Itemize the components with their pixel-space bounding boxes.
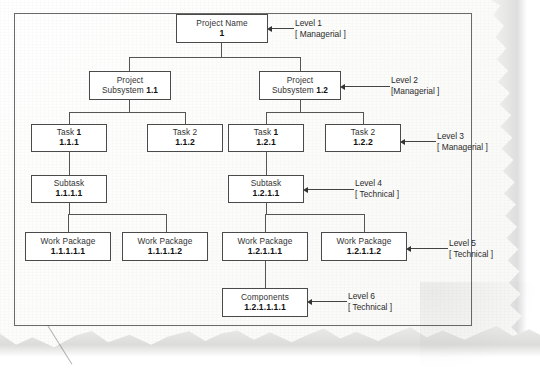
annotation-kind: [ Technical ]: [355, 189, 399, 200]
node-title: Work Package: [41, 237, 96, 246]
connector-line: [221, 43, 222, 57]
node-code: 1.1.1.1.1: [51, 247, 85, 257]
annotation-arrow-head-icon: [303, 187, 308, 193]
wbs-node-1-1-1-1-1: Work Package1.1.1.1.1: [25, 232, 111, 261]
connector-line: [266, 112, 267, 124]
wbs-node-1-2-2: Task 21.2.2: [325, 124, 401, 152]
pencil-mark: [47, 325, 72, 365]
connector-line: [69, 112, 70, 124]
annotation-kind: [ Managerial ]: [295, 29, 346, 40]
wbs-node-1: Project Name1: [176, 14, 268, 43]
wbs-node-: ProjectSubsystem 1.2: [259, 71, 341, 100]
node-title: Work Package: [238, 237, 293, 246]
annotation-arrow-line: [272, 28, 294, 29]
connector-line: [69, 203, 70, 214]
node-code: 1.2.2: [353, 138, 373, 148]
annotation-arrow-line: [345, 86, 390, 87]
annotation-level: Level 6: [348, 291, 392, 302]
level-annotation-3: Level 3[ Managerial ]: [437, 131, 488, 152]
connector-line: [300, 57, 301, 71]
connector-line: [363, 112, 364, 124]
level-annotation-1: Level 1[ Managerial ]: [295, 18, 346, 39]
annotation-kind: [ Technical ]: [348, 302, 392, 313]
annotation-level: Level 2: [391, 75, 439, 86]
connector-line: [69, 152, 70, 175]
annotation-level: Level 5: [449, 238, 493, 249]
wbs-node-1-1-1-1-2: Work Package1.1.1.1.2: [122, 232, 208, 261]
node-title: Work Package: [337, 237, 392, 246]
connector-line: [265, 214, 364, 215]
node-code: 1.1.1.1: [56, 189, 83, 199]
annotation-arrow-line: [312, 301, 347, 302]
node-title: Subtask: [251, 179, 282, 188]
wbs-node-1-1-1-1: Subtask1.1.1.1: [31, 175, 107, 203]
connector-line: [364, 214, 365, 232]
node-title: Subtask: [54, 179, 85, 188]
wbs-node-1-1-1: Task 11.1.1: [31, 124, 107, 152]
connector-line: [265, 214, 266, 232]
annotation-kind: [Managerial ]: [391, 86, 439, 97]
document-frame: [14, 13, 472, 326]
connector-line: [69, 112, 186, 113]
connector-line: [265, 261, 266, 288]
node-title: Components: [241, 293, 289, 302]
node-code: 1.2.1.1.1: [248, 247, 282, 257]
wbs-node-: ProjectSubsystem 1.1: [89, 71, 171, 100]
annotation-arrow-line: [405, 141, 436, 142]
annotation-level: Level 1: [295, 18, 346, 29]
wbs-node-1-2-1: Task 11.2.1: [228, 124, 304, 152]
annotation-kind: [ Managerial ]: [437, 142, 488, 153]
node-subsystem-label: Subsystem 1.1: [102, 86, 158, 95]
annotation-level: Level 3: [437, 131, 488, 142]
wbs-node-1-2-1-1-2: Work Package1.2.1.1.2: [321, 232, 407, 261]
connector-line: [185, 112, 186, 124]
node-title: Task 1: [57, 128, 82, 137]
annotation-level: Level 4: [355, 178, 399, 189]
connector-line: [129, 100, 130, 112]
connector-line: [266, 152, 267, 175]
scanned-page: Project Name1ProjectSubsystem 1.1Project…: [0, 0, 540, 372]
connector-line: [266, 112, 363, 113]
level-annotation-2: Level 2[Managerial ]: [391, 75, 439, 96]
connector-line: [166, 214, 167, 232]
node-code: 1: [220, 29, 225, 39]
node-title: Work Package: [138, 237, 193, 246]
node-code: 1.1.1: [59, 138, 79, 148]
node-subsystem-label: Subsystem 1.2: [272, 86, 328, 95]
connector-line: [300, 100, 301, 112]
annotation-arrow-line: [411, 248, 448, 249]
node-title: Task 2: [351, 128, 376, 137]
level-annotation-5: Level 5[ Technical ]: [449, 238, 493, 259]
connector-line: [129, 57, 301, 58]
node-title: Task 2: [173, 128, 198, 137]
connector-line: [68, 214, 69, 232]
annotation-arrow-head-icon: [406, 246, 411, 252]
level-annotation-4: Level 4[ Technical ]: [355, 178, 399, 199]
connector-line: [68, 214, 166, 215]
wbs-node-1-1-2: Task 21.1.2: [147, 124, 223, 152]
connector-line: [129, 57, 130, 71]
connector-line: [266, 203, 267, 214]
node-title: Task 1: [254, 128, 279, 137]
annotation-arrow-head-icon: [400, 139, 405, 145]
node-code: 1.2.1.1.1.1: [244, 303, 286, 313]
annotation-arrow-head-icon: [340, 84, 345, 90]
annotation-arrow-line: [308, 189, 354, 190]
torn-edge-right: [480, 0, 540, 372]
node-code: 1.1.1.1.2: [148, 247, 182, 257]
annotation-arrow-head-icon: [307, 299, 312, 305]
annotation-arrow-head-icon: [267, 26, 272, 32]
annotation-kind: [ Technical ]: [449, 249, 493, 260]
node-code: 1.1.2: [175, 138, 195, 148]
wbs-node-1-2-1-1-1-1: Components1.2.1.1.1.1: [222, 288, 308, 317]
node-code: 1.2.1.1: [253, 189, 280, 199]
wbs-node-1-2-1-1-1: Work Package1.2.1.1.1: [222, 232, 308, 261]
wbs-node-1-2-1-1: Subtask1.2.1.1: [228, 175, 304, 203]
node-code: 1.2.1: [256, 138, 276, 148]
node-title: Project Name: [196, 19, 247, 28]
level-annotation-6: Level 6[ Technical ]: [348, 291, 392, 312]
node-code: 1.2.1.1.2: [347, 247, 381, 257]
